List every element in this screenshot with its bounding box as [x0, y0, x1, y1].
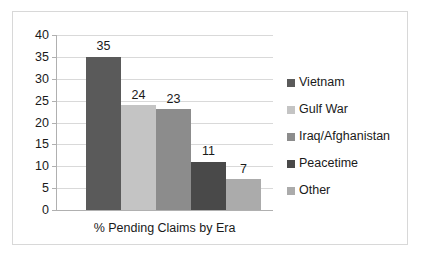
y-tick-label: 5	[42, 182, 49, 195]
legend-item-vietnam[interactable]: Vietnam	[287, 69, 405, 96]
bar-group[interactable]: 23	[156, 35, 191, 210]
bar-group[interactable]: 35	[86, 35, 121, 210]
y-tick-mark	[52, 101, 56, 102]
y-tick-mark	[52, 166, 56, 167]
chart-legend: VietnamGulf WarIraq/AfghanistanPeacetime…	[287, 69, 405, 204]
y-tick-mark	[52, 57, 56, 58]
y-tick-label: 25	[35, 94, 49, 107]
bar-value-label: 23	[167, 93, 181, 106]
legend-item-peacetime[interactable]: Peacetime	[287, 150, 405, 177]
chart-container: 0510152025303540 352423117 % Pending Cla…	[12, 11, 408, 245]
legend-swatch-icon	[287, 160, 295, 168]
bar-value-label: 7	[240, 163, 247, 176]
y-tick-label: 35	[35, 51, 49, 64]
x-axis-line	[56, 210, 273, 211]
y-tick-mark	[52, 79, 56, 80]
legend-item-iraq-afghanistan[interactable]: Iraq/Afghanistan	[287, 123, 405, 150]
bar-group[interactable]: 11	[191, 35, 226, 210]
y-tick-label: 0	[42, 204, 49, 217]
bar-gulf-war[interactable]	[121, 105, 156, 210]
y-tick-mark	[52, 123, 56, 124]
y-tick-mark	[52, 35, 56, 36]
legend-label: Vietnam	[299, 76, 345, 89]
y-tick-label: 10	[35, 160, 49, 173]
bar-other[interactable]	[226, 179, 261, 210]
bar-vietnam[interactable]	[86, 57, 121, 210]
y-tick-label: 20	[35, 116, 49, 129]
legend-item-other[interactable]: Other	[287, 177, 405, 204]
plot-area: 0510152025303540 352423117	[56, 35, 273, 211]
bars-layer: 352423117	[57, 35, 273, 210]
legend-swatch-icon	[287, 106, 295, 114]
legend-swatch-icon	[287, 79, 295, 87]
y-tick-mark	[52, 144, 56, 145]
y-tick-mark	[52, 210, 56, 211]
legend-label: Gulf War	[299, 103, 348, 116]
bar-iraq-afghanistan[interactable]	[156, 109, 191, 210]
y-tick-label: 15	[35, 138, 49, 151]
bar-value-label: 11	[202, 145, 215, 158]
y-tick-label: 40	[35, 29, 49, 42]
y-tick-label: 30	[35, 73, 49, 86]
legend-label: Iraq/Afghanistan	[299, 130, 390, 143]
x-axis-title: % Pending Claims by Era	[56, 222, 273, 235]
legend-item-gulf-war[interactable]: Gulf War	[287, 96, 405, 123]
bar-value-label: 24	[132, 89, 146, 102]
bar-group[interactable]: 7	[226, 35, 261, 210]
legend-label: Peacetime	[299, 157, 358, 170]
legend-label: Other	[299, 184, 330, 197]
bar-group[interactable]: 24	[121, 35, 156, 210]
bar-peacetime[interactable]	[191, 162, 226, 210]
legend-swatch-icon	[287, 133, 295, 141]
y-tick-mark	[52, 188, 56, 189]
legend-swatch-icon	[287, 187, 295, 195]
bar-value-label: 35	[97, 40, 111, 53]
